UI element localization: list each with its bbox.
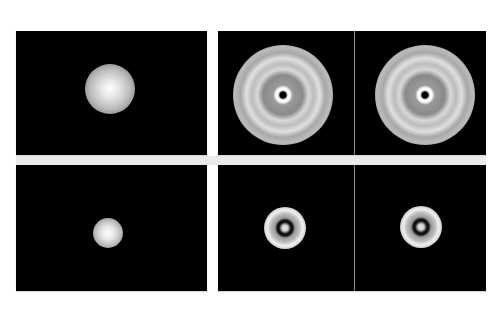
concentric-rings-right bbox=[400, 206, 442, 248]
row-separator-band bbox=[16, 156, 486, 165]
panel-bottom-left bbox=[16, 165, 207, 291]
diffraction-pattern-right bbox=[375, 45, 475, 145]
diffraction-pattern-left bbox=[233, 45, 333, 145]
subpanel-divider bbox=[354, 165, 355, 291]
panel-top-right bbox=[218, 31, 486, 155]
gaussian-spot-small bbox=[93, 218, 123, 248]
panel-top-left bbox=[16, 31, 207, 155]
panel-bottom-right bbox=[218, 165, 486, 291]
gaussian-spot bbox=[85, 64, 135, 114]
subpanel-divider bbox=[354, 31, 355, 155]
concentric-rings-left bbox=[264, 207, 306, 249]
